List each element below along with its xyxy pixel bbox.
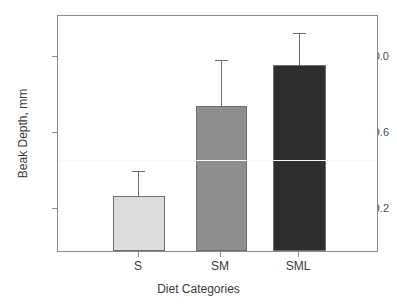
bar-sml bbox=[273, 65, 326, 251]
x-tick-label-sm: SM bbox=[211, 259, 229, 273]
error-bar-stem-sml bbox=[299, 34, 300, 65]
y-axis-title: Beak Depth, mm bbox=[14, 15, 32, 252]
error-bar-cap-s bbox=[132, 171, 145, 172]
error-bar-cap-sml bbox=[293, 33, 306, 34]
error-bar-cap-sm bbox=[215, 60, 228, 61]
x-axis-title: Diet Categories bbox=[0, 282, 397, 296]
x-tick-label-sml: SML bbox=[286, 259, 311, 273]
bar-sm bbox=[196, 106, 247, 251]
bar-chart-figure: Beak Depth, mm 9.2 9.6 10.0 S SM SML Die… bbox=[0, 0, 397, 306]
plot-area bbox=[57, 15, 378, 252]
bar-s bbox=[113, 196, 165, 251]
x-tick-mark-s bbox=[138, 252, 139, 257]
error-bar-stem-sm bbox=[221, 61, 222, 106]
x-tick-mark-sml bbox=[298, 252, 299, 257]
x-tick-mark-sm bbox=[220, 252, 221, 257]
x-tick-label-s: S bbox=[134, 259, 142, 273]
error-bar-stem-s bbox=[138, 172, 139, 196]
